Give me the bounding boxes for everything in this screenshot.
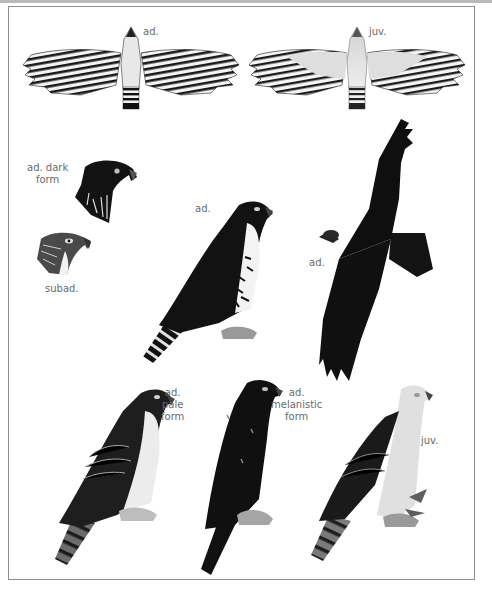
label-head-subadult: subad.: [45, 283, 79, 295]
hawk-head-subadult-illustration: [35, 229, 93, 277]
label-line: ad.: [161, 387, 184, 399]
figure-perched-adult: [139, 197, 279, 367]
hawk-flight-underside-juvenile-illustration: [247, 23, 467, 113]
label-flight-adult: ad.: [143, 26, 159, 38]
label-flight-juvenile: juv.: [369, 26, 386, 38]
label-line: pale: [161, 399, 184, 411]
figure-flight-juvenile: [247, 23, 467, 113]
label-flight-adult-dark: ad.: [309, 257, 325, 269]
label-perched-adult-pale-form: ad. pale form: [161, 387, 184, 423]
label-head-adult-dark-form: ad. dark form: [27, 162, 68, 186]
hawk-head-dark-form-illustration: [71, 157, 139, 225]
illustration-plate: ad.: [8, 6, 475, 580]
figure-perched-adult-melanistic-form: [185, 379, 285, 579]
page-top-band: [0, 0, 492, 3]
figure-perched-adult-pale-form: [45, 387, 175, 567]
hawk-perched-juvenile-illustration: [305, 385, 435, 565]
label-line: form: [27, 174, 68, 186]
hawk-flight-underside-adult-illustration: [21, 23, 241, 113]
label-line: ad. dark: [27, 162, 68, 174]
label-perched-adult: ad.: [195, 203, 211, 215]
hawk-perched-adult-illustration: [139, 197, 279, 367]
figure-head-adult-dark-form: [71, 157, 139, 225]
hawk-perched-pale-form-illustration: [45, 387, 175, 567]
figure-flight-adult-dark: [309, 119, 439, 389]
figure-head-subadult: [35, 229, 93, 277]
label-line: form: [161, 411, 184, 423]
hawk-perched-melanistic-illustration: [185, 379, 285, 579]
label-perched-juvenile: juv.: [421, 435, 438, 447]
figure-perched-juvenile: [305, 385, 435, 565]
hawk-flight-dark-illustration: [309, 119, 439, 389]
figure-flight-adult: [21, 23, 241, 113]
